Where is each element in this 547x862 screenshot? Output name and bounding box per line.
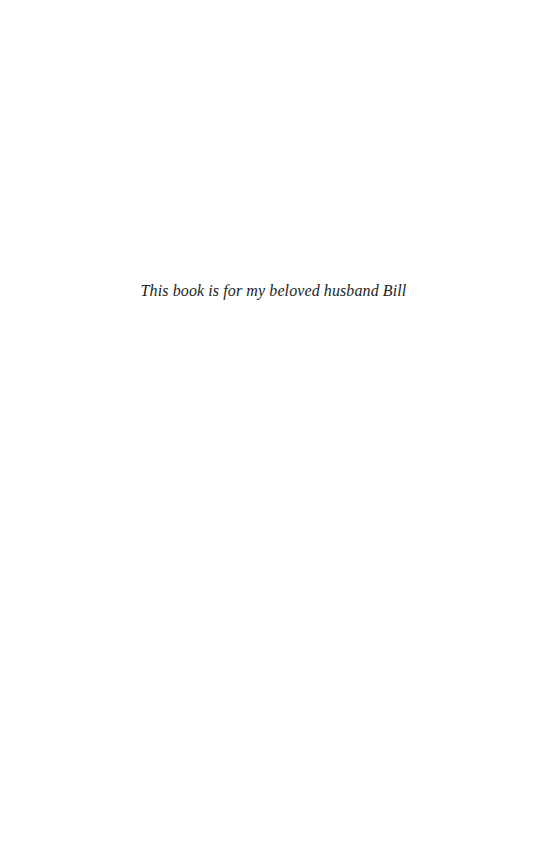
book-page: This book is for my beloved husband Bill — [0, 0, 547, 862]
dedication-text: This book is for my beloved husband Bill — [0, 281, 547, 301]
